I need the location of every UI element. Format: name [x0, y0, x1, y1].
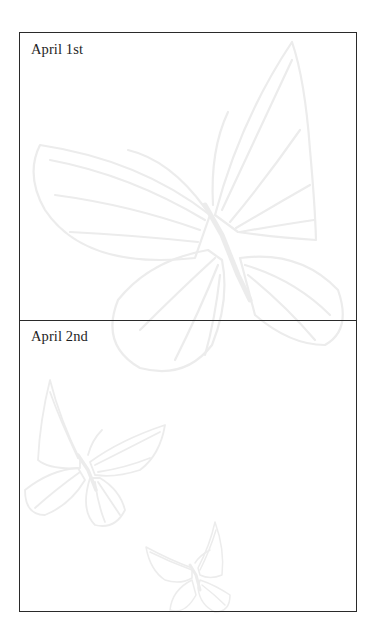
entry-date-label: April 1st: [31, 41, 83, 58]
journal-sheet: April 1st April 2nd: [19, 32, 357, 612]
entry-section-april-2nd[interactable]: April 2nd: [20, 320, 356, 612]
entry-section-april-1st[interactable]: April 1st: [20, 33, 356, 320]
entry-date-label: April 2nd: [31, 328, 88, 345]
